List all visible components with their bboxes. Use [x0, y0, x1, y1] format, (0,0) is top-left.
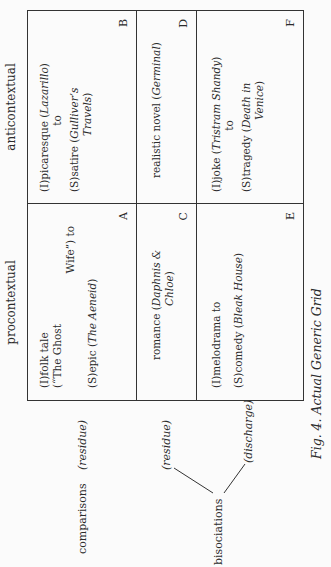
cell-f-line: (S)tragedy (Death in — [240, 19, 253, 192]
cell-b-line: (S)satire (Gulliver’s — [68, 19, 81, 192]
cell-c-line: romance (Daphnis & — [150, 212, 163, 360]
cell-b: (I)picaresque (Lazarillo) to (S)satire (… — [28, 11, 136, 204]
cell-e-line: (I)melodrama to — [210, 212, 223, 388]
cell-c: romance (Daphnis & Chloe) C — [136, 204, 196, 400]
cell-b-line: Travels) — [81, 19, 94, 192]
cell-e: (I)melodrama to (S)comedy (Bleak House) … — [196, 204, 303, 400]
cell-letter-d: D — [177, 19, 190, 28]
cell-f: (I)joke (Tristram Shandy) to (S)tragedy … — [196, 11, 303, 204]
cell-f-line: (I)joke (Tristram Shandy) — [210, 19, 223, 192]
cell-letter-f: F — [284, 19, 297, 27]
cell-a-line: Wife”) to — [64, 212, 77, 388]
figure-caption: Fig. 4. Actual Generic Grid — [309, 288, 324, 459]
cell-d: realistic novel (Germinal) D — [136, 11, 196, 204]
cell-letter-e: E — [284, 212, 297, 220]
cell-a-line: (“The Ghost — [51, 212, 64, 388]
cell-a-line: (S)epic (The Aeneid) — [86, 212, 99, 388]
generic-grid: (I)folk tale (“The Ghost Wife”) to (S)ep… — [27, 10, 304, 401]
cell-a-line: (I)folk tale — [38, 212, 51, 388]
cell-b-line: (I)picaresque (Lazarillo) — [38, 19, 51, 192]
cell-a: (I)folk tale (“The Ghost Wife”) to (S)ep… — [28, 204, 136, 400]
cell-d-line: realistic novel (Germinal) — [150, 19, 163, 178]
cell-letter-a: A — [117, 212, 130, 220]
cell-c-line: Chloe) — [163, 212, 176, 360]
cell-f-line: to — [223, 19, 236, 192]
cell-f-line: Venice) — [253, 19, 266, 192]
cell-letter-c: C — [177, 212, 190, 220]
cell-e-line: (S)comedy (Bleak House) — [232, 212, 245, 388]
rotated-page: procontextual anticontextual comparisons… — [0, 0, 331, 567]
cell-letter-b: B — [117, 19, 130, 27]
cell-b-line: to — [51, 19, 64, 192]
